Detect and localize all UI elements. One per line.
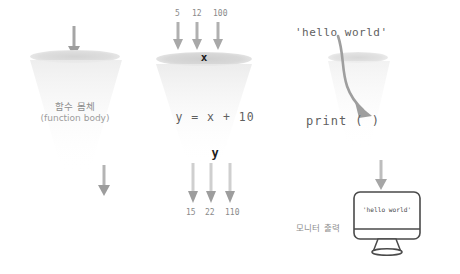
curved-flow-arrow — [305, 34, 415, 124]
input-arrows-x — [170, 22, 240, 52]
output-value-1: 15 — [186, 208, 196, 217]
function-body-label-kr: 함수 몸체 — [15, 99, 135, 113]
variable-y-label: y — [180, 146, 250, 160]
panel-print-output: 'hello world' print ( ) 모니터 출력 — [285, 0, 460, 274]
panel-function-body: 함수 몸체 (function body) — [0, 0, 155, 274]
print-call-expression: print ( ) — [306, 114, 380, 128]
diagram-canvas: 함수 몸체 (function body) 5 12 100 x — [0, 0, 460, 274]
monitor-icon — [351, 190, 423, 262]
monitor-screen-text: 'hello world' — [353, 206, 421, 213]
output-arrows-y — [185, 163, 255, 205]
function-body-label-en: (function body) — [15, 113, 135, 123]
monitor-label: 모니터 출력 — [287, 221, 349, 233]
expression-formula: y = x + 10 — [150, 110, 280, 124]
input-value-1: 5 — [175, 9, 180, 18]
output-arrow-function-body — [94, 165, 114, 197]
input-value-3: 100 — [213, 9, 227, 18]
output-value-3: 110 — [225, 208, 239, 217]
input-value-2: 12 — [192, 9, 202, 18]
arrow-to-monitor — [372, 160, 390, 192]
panel-variable-x: 5 12 100 x — [150, 0, 290, 274]
output-value-2: 22 — [205, 208, 215, 217]
